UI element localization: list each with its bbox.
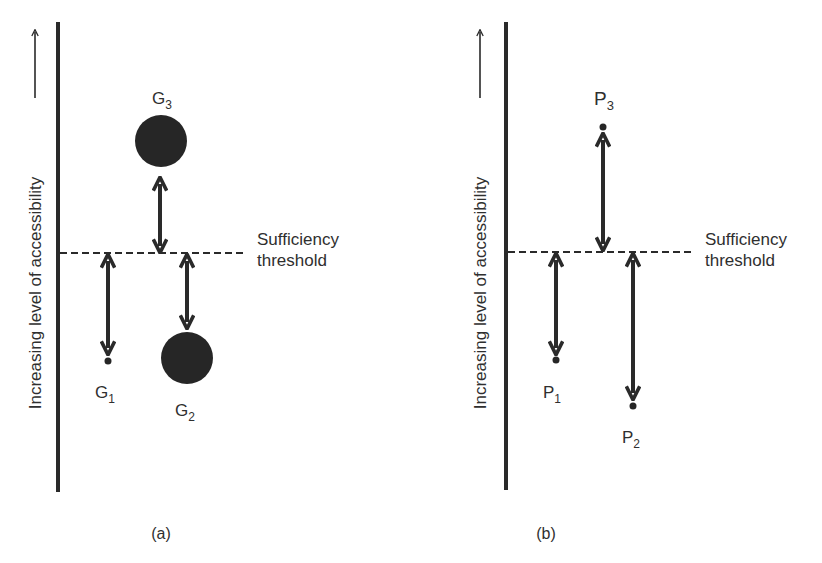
panel-caption-a: (a) <box>151 525 171 542</box>
threshold-label-line2: threshold <box>257 251 327 270</box>
item-label-p1: P1 <box>543 383 561 406</box>
threshold-label-line2: threshold <box>705 251 775 270</box>
item-label-g1: G1 <box>95 383 115 406</box>
threshold-label-line1: Sufficiency <box>257 230 339 249</box>
threshold-label-line1: Sufficiency <box>705 230 787 249</box>
item-marker-p1 <box>553 357 560 364</box>
item-label-p2: P2 <box>622 428 640 451</box>
item-label-p3: P3 <box>594 88 614 113</box>
axis-label: Increasing level of accessibility <box>471 176 490 409</box>
panel-caption-b: (b) <box>536 525 556 542</box>
item-marker-g2 <box>161 332 213 384</box>
axis-label: Increasing level of accessibility <box>26 176 45 409</box>
accessibility-sufficiency-diagram: Increasing level of accessibility Suffic… <box>0 0 822 563</box>
item-marker-g3 <box>135 115 187 167</box>
item-marker-p2 <box>630 403 637 410</box>
item-label-g3: G3 <box>152 89 172 112</box>
panel-a: Increasing level of accessibility Suffic… <box>26 22 339 542</box>
panel-b: Increasing level of accessibility Suffic… <box>471 22 787 542</box>
item-marker-g1 <box>105 358 112 365</box>
item-label-g2: G2 <box>175 401 195 424</box>
item-marker-p3 <box>600 124 607 131</box>
